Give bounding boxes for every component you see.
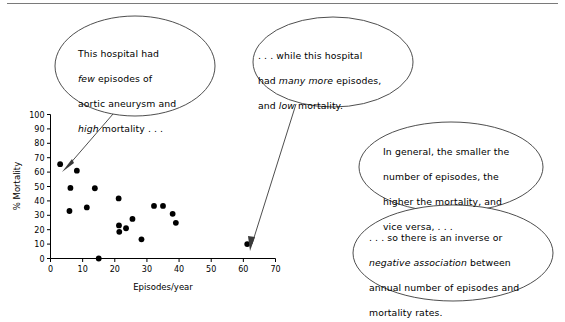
bubble4-emphasis-negative-association: negative association: [369, 257, 467, 268]
bubble1-line4: mortality . . .: [99, 123, 164, 134]
bubble4-line4: mortality rates.: [369, 307, 442, 318]
bubble-text-high-volume-low-mortality: . . . while this hospital had many more …: [258, 38, 398, 125]
bubble2-line2-post: episodes,: [333, 75, 381, 86]
bubble2-emphasis-low: low: [279, 100, 295, 111]
bubble2-line3-post: mortality.: [295, 100, 343, 111]
bubble4-line2-post: between: [467, 257, 511, 268]
bubble2-line2-pre: had: [258, 75, 279, 86]
bubble-text-low-volume-high-mortality: This hospital had few episodes of aortic…: [78, 36, 196, 148]
bubble4-line1: . . . so there is an inverse or: [369, 232, 502, 243]
bubble2-line3-pre: and: [258, 100, 279, 111]
bubble4-line3: annual number of episodes and: [369, 282, 519, 293]
bubble2-emphasis-many-more: many more: [279, 75, 333, 86]
bubble3-line1: In general, the smaller the: [383, 146, 509, 157]
bubble3-line3: higher the mortality, and: [383, 196, 502, 207]
bubble1-emphasis-few: few: [78, 73, 95, 84]
bubble1-line1: This hospital had: [78, 48, 159, 59]
bubble1-line2: episodes of: [95, 73, 152, 84]
bubble1-emphasis-high: high: [78, 123, 99, 134]
bubble1-line3: aortic aneurysm and: [78, 98, 176, 109]
bubble2-line1: . . . while this hospital: [258, 50, 362, 61]
bubble-text-inverse-association: . . . so there is an inverse or negative…: [369, 220, 529, 322]
bubble3-line2: number of episodes, the: [383, 171, 499, 182]
